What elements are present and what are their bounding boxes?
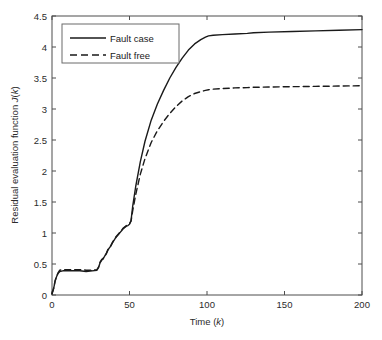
y-tick-label: 0 [42,290,47,301]
x-tick-label: 150 [277,299,293,310]
y-tick-label: 0.5 [34,259,47,270]
x-tick-label: 200 [354,299,370,310]
chart-background [0,0,382,340]
y-tick-label: 2 [42,166,47,177]
y-tick-label: 2.5 [34,135,47,146]
x-tick-label: 50 [124,299,135,310]
legend-label: Fault case [110,33,154,44]
x-axis-title: Time (k) [190,316,224,327]
x-tick-label: 100 [199,299,215,310]
y-axis-title: Residual evaluation function J(k) [9,86,20,223]
y-tick-label: 3.5 [34,73,47,84]
chart-screenshot: 00.511.522.533.544.5 050100150200 Time (… [0,0,382,340]
y-tick-label: 3 [42,104,47,115]
y-tick-label: 1.5 [34,197,47,208]
residual-evaluation-chart: 00.511.522.533.544.5 050100150200 Time (… [0,0,382,340]
y-tick-label: 1 [42,228,47,239]
chart-legend: Fault caseFault free [62,24,179,63]
x-tick-label: 0 [49,299,54,310]
y-tick-label: 4 [42,42,47,53]
y-tick-label: 4.5 [34,11,47,22]
legend-label: Fault free [110,50,150,61]
